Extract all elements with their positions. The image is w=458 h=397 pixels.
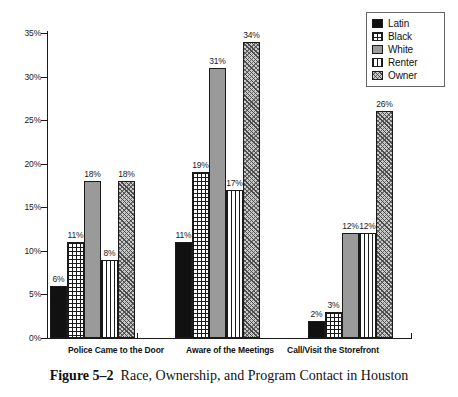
- x-axis-tick-4: [411, 333, 412, 339]
- y-axis-tick-35%: [41, 33, 48, 34]
- legend-swatch-renter-icon: [372, 58, 383, 67]
- legend-swatch-owner-icon: [372, 71, 383, 80]
- y-axis-tick-30%: [41, 77, 48, 78]
- bar-value-latin-group-3: 2%: [306, 310, 327, 319]
- bar-latin-group-3: [308, 321, 325, 338]
- y-axis-label-25%: 25%: [7, 116, 41, 125]
- bar-value-black-group-3: 3%: [323, 301, 344, 310]
- caption-figure-number: Figure 5–2: [50, 368, 114, 383]
- y-axis-label-10%: 10%: [7, 247, 41, 256]
- bar-black-group-2: [192, 172, 209, 338]
- bar-value-latin-group-2: 11%: [173, 231, 194, 240]
- bar-value-white-group-1: 18%: [82, 170, 103, 179]
- y-axis-label-35%: 35%: [7, 29, 41, 38]
- bar-value-black-group-1: 11%: [65, 231, 86, 240]
- bar-value-owner-group-1: 18%: [116, 170, 137, 179]
- y-axis-label-30%: 30%: [7, 73, 41, 82]
- legend-item-latin: Latin: [372, 17, 439, 30]
- bar-black-group-3: [325, 312, 342, 338]
- figure-container: Latin Black White Renter Owner 0%5%10%15…: [0, 0, 458, 397]
- y-axis-label-0%: 0%: [7, 334, 41, 343]
- bar-black-group-1: [67, 242, 84, 338]
- bar-latin-group-2: [175, 242, 192, 338]
- category-label-call-visit-the-storefront: Call/Visit the Storefront: [258, 345, 408, 355]
- y-axis-tick-0%: [41, 338, 48, 339]
- chart-legend: Latin Black White Renter Owner: [366, 12, 445, 87]
- x-axis-tick-1: [137, 333, 138, 339]
- legend-swatch-latin-icon: [372, 19, 383, 28]
- legend-label-renter: Renter: [388, 58, 417, 68]
- y-axis-tick-25%: [41, 120, 48, 121]
- legend-swatch-white-icon: [372, 45, 383, 54]
- y-axis-label-20%: 20%: [7, 160, 41, 169]
- bar-owner-group-1: [118, 181, 135, 338]
- legend-label-black: Black: [388, 32, 412, 42]
- figure-caption: Figure 5–2 Race, Ownership, and Program …: [0, 368, 458, 384]
- bar-white-group-2: [209, 68, 226, 338]
- bar-value-renter-group-1: 8%: [99, 249, 120, 258]
- y-axis-label-15%: 15%: [7, 203, 41, 212]
- y-axis-label-5%: 5%: [7, 290, 41, 299]
- bar-value-white-group-2: 31%: [207, 57, 228, 66]
- bar-renter-group-2: [226, 190, 243, 338]
- legend-swatch-black-icon: [372, 32, 383, 41]
- bar-value-latin-group-1: 6%: [48, 275, 69, 284]
- y-axis-tick-20%: [41, 164, 48, 165]
- legend-item-black: Black: [372, 30, 439, 43]
- bar-renter-group-3: [359, 233, 376, 338]
- bar-value-owner-group-3: 26%: [374, 100, 395, 109]
- y-axis-tick-5%: [41, 294, 48, 295]
- bar-value-owner-group-2: 34%: [241, 31, 262, 40]
- legend-label-owner: Owner: [388, 71, 417, 81]
- y-axis-tick-10%: [41, 251, 48, 252]
- bar-owner-group-3: [376, 111, 393, 338]
- bar-white-group-1: [84, 181, 101, 338]
- legend-item-white: White: [372, 43, 439, 56]
- bar-white-group-3: [342, 233, 359, 338]
- bar-owner-group-2: [243, 42, 260, 338]
- bar-renter-group-1: [101, 260, 118, 338]
- y-axis-tick-15%: [41, 207, 48, 208]
- caption-title: Race, Ownership, and Program Contact in …: [121, 368, 409, 383]
- legend-item-renter: Renter: [372, 56, 439, 69]
- legend-label-latin: Latin: [388, 19, 409, 29]
- bar-value-black-group-2: 19%: [190, 161, 211, 170]
- bar-latin-group-1: [50, 286, 67, 338]
- legend-label-white: White: [388, 45, 413, 55]
- bar-value-renter-group-3: 12%: [357, 222, 378, 231]
- bar-value-renter-group-2: 17%: [224, 179, 245, 188]
- legend-item-owner: Owner: [372, 69, 439, 82]
